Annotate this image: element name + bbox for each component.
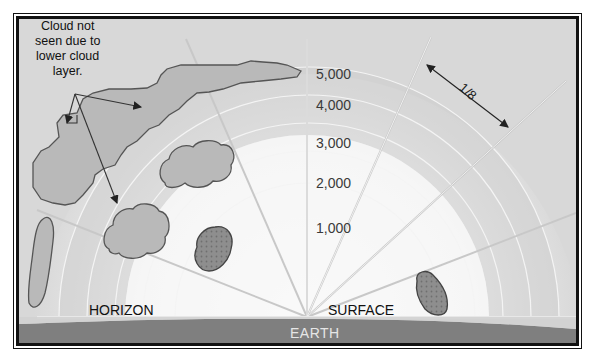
annotation-note: Cloud not seen due to lower cloud layer.: [35, 19, 100, 79]
altitude-label-3000: 3,000: [316, 135, 351, 151]
annotation-line: Cloud not: [35, 19, 100, 34]
surface-label: SURFACE: [328, 302, 394, 318]
sky-scene: [19, 19, 576, 343]
earth-label: EARTH: [290, 325, 340, 341]
altitude-label-5000: 5,000: [316, 66, 351, 82]
annotation-line: layer.: [35, 64, 100, 79]
annotation-line: lower cloud: [35, 49, 100, 64]
annotation-line: seen due to: [35, 34, 100, 49]
altitude-label-2000: 2,000: [316, 175, 351, 191]
altitude-label-1000: 1,000: [316, 220, 351, 236]
altitude-label-4000: 4,000: [316, 97, 351, 113]
horizon-label: HORIZON: [89, 302, 154, 318]
diagram-canvas: Cloud not seen due to lower cloud layer.…: [16, 16, 579, 346]
